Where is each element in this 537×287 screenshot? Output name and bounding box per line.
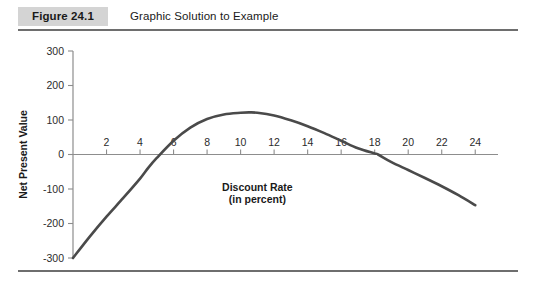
x-tick-label: 24 bbox=[469, 136, 481, 148]
y-axis-ticks bbox=[68, 51, 73, 258]
figure-caption: Graphic Solution to Example bbox=[130, 10, 278, 22]
y-tick-label: -200 bbox=[43, 217, 64, 229]
x-tick-label: 22 bbox=[436, 136, 448, 148]
x-tick-label: 8 bbox=[204, 136, 210, 148]
footer-divider-bottom bbox=[18, 270, 518, 272]
x-tick-label: 2 bbox=[104, 136, 110, 148]
y-axis-group: 3002001000-100-200-300 bbox=[43, 45, 73, 264]
x-axis-tick-labels: 24681012141618202224 bbox=[104, 136, 482, 148]
y-tick-label: -300 bbox=[43, 252, 64, 264]
y-tick-label: 100 bbox=[46, 114, 64, 126]
x-axis-group: 24681012141618202224 bbox=[73, 136, 498, 155]
x-tick-label: 10 bbox=[235, 136, 247, 148]
x-axis-title: Discount Rate bbox=[222, 181, 293, 193]
y-tick-label: 200 bbox=[46, 79, 64, 91]
npv-chart-svg: 3002001000-100-200-300 24681012141618202… bbox=[0, 33, 537, 268]
x-tick-label: 18 bbox=[369, 136, 381, 148]
y-tick-label: -100 bbox=[43, 183, 64, 195]
x-tick-label: 4 bbox=[137, 136, 143, 148]
y-tick-label: 300 bbox=[46, 45, 64, 57]
header-divider-top bbox=[18, 29, 518, 31]
figure-header: Figure 24.1 Graphic Solution to Example bbox=[18, 6, 518, 26]
x-tick-label: 20 bbox=[402, 136, 414, 148]
x-axis-subtitle: (in percent) bbox=[229, 193, 286, 205]
chart-plot-area: 3002001000-100-200-300 24681012141618202… bbox=[0, 33, 537, 268]
y-tick-label: 0 bbox=[58, 148, 64, 160]
figure-container: Figure 24.1 Graphic Solution to Example … bbox=[0, 0, 537, 287]
y-axis-title: Net Present Value bbox=[17, 110, 29, 199]
x-tick-label: 12 bbox=[268, 136, 280, 148]
x-tick-label: 14 bbox=[302, 136, 314, 148]
figure-number-badge: Figure 24.1 bbox=[18, 7, 108, 26]
y-axis-tick-labels: 3002001000-100-200-300 bbox=[43, 45, 64, 264]
